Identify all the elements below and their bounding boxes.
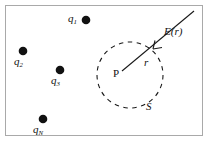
charge-label-q1: q1 bbox=[68, 13, 77, 25]
center-point-label-P: P bbox=[113, 68, 119, 79]
charge-label-q1-subscript: 1 bbox=[74, 18, 77, 25]
surface-label-S: S bbox=[146, 101, 152, 112]
figure-container: q1 q2 q3 qN P r E(r) S bbox=[0, 0, 210, 144]
charge-label-qN: qN bbox=[33, 124, 43, 136]
charge-label-qN-subscript: N bbox=[39, 129, 44, 136]
field-label-Er: E(r) bbox=[164, 26, 182, 37]
charge-dot-q2 bbox=[19, 47, 28, 56]
charge-label-q3: q3 bbox=[51, 75, 60, 87]
figure-canvas bbox=[0, 0, 210, 144]
charge-label-q2-subscript: 2 bbox=[20, 61, 23, 68]
charge-dot-qN bbox=[39, 115, 48, 124]
charge-dot-q3 bbox=[56, 66, 65, 75]
charge-dot-q1 bbox=[82, 16, 91, 25]
charge-label-q3-subscript: 3 bbox=[57, 80, 60, 87]
charge-label-q2: q2 bbox=[14, 56, 23, 68]
radius-label-r: r bbox=[144, 57, 148, 68]
